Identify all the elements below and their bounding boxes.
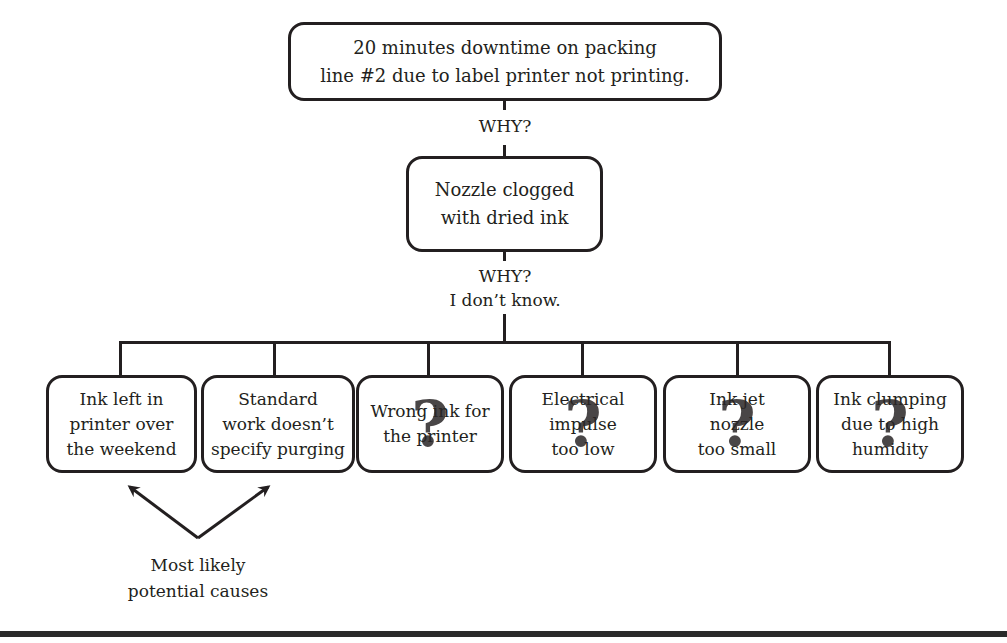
potential-cause-box-6: Ink clumping due to high humidity ? bbox=[816, 375, 964, 473]
bottom-rule bbox=[0, 631, 1007, 637]
potential-cause-box-2: Standard work doesn’t specify purging bbox=[201, 375, 355, 473]
cause-text: Nozzle clogged with dried ink bbox=[435, 176, 575, 232]
potential-cause-text: Ink jet nozzle too small bbox=[698, 387, 777, 462]
potential-cause-text: Ink left in printer over the weekend bbox=[66, 387, 176, 462]
most-likely-annotation: Most likely potential causes bbox=[118, 552, 278, 604]
potential-cause-text: Wrong ink for the printer bbox=[370, 399, 489, 449]
problem-text: 20 minutes downtime on packing line #2 d… bbox=[320, 34, 690, 90]
potential-cause-text: Standard work doesn’t specify purging bbox=[211, 387, 345, 462]
arrows-icon bbox=[0, 0, 1007, 643]
potential-cause-text: Ink clumping due to high humidity bbox=[833, 387, 947, 462]
potential-cause-box-1: Ink left in printer over the weekend bbox=[46, 375, 197, 473]
potential-cause-text: Electrical impulse too low bbox=[542, 387, 625, 462]
problem-box: 20 minutes downtime on packing line #2 d… bbox=[288, 22, 722, 101]
